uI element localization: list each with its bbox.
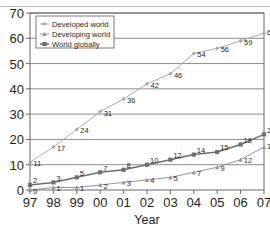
y-axis-tick-label: 40 — [10, 82, 24, 97]
data-point-label: 3 — [127, 179, 131, 188]
x-axis-tick-label: 99 — [70, 195, 84, 210]
data-point-label: 7 — [197, 169, 201, 178]
legend-label: Developing world — [52, 30, 110, 39]
x-axis-tick-label: 00 — [93, 195, 107, 210]
data-point-label: 10 — [150, 156, 158, 165]
data-point-marker — [262, 132, 266, 136]
data-point-label: 17 — [267, 142, 270, 151]
data-point-label: 12 — [173, 151, 181, 160]
data-point-label: 22 — [267, 126, 270, 135]
data-point-label: 0 — [33, 187, 37, 196]
data-point-marker — [262, 145, 266, 149]
data-point-label: 9 — [220, 164, 224, 173]
data-point-label: 1 — [80, 184, 84, 193]
x-axis-tick-label: 02 — [140, 195, 154, 210]
data-point-label: 18 — [244, 136, 252, 145]
data-point-label: 11 — [34, 159, 42, 168]
chart-series: 23578101214151822 — [28, 126, 270, 187]
x-axis-tick-label: 06 — [233, 195, 247, 210]
legend-label: World globally — [52, 40, 100, 49]
data-point-label: 15 — [220, 143, 228, 152]
data-point-label: 12 — [244, 156, 252, 165]
y-axis-tick-label: 30 — [10, 107, 24, 122]
data-point-marker — [215, 150, 219, 154]
x-axis-tick-label: 98 — [46, 195, 60, 210]
data-point-label: 1 — [57, 184, 61, 193]
data-point-marker — [192, 153, 196, 157]
data-point-marker — [98, 170, 102, 174]
data-point-label: 24 — [80, 126, 88, 135]
y-axis-tick-label: 20 — [10, 132, 24, 147]
data-point-marker — [239, 142, 243, 146]
data-point-label: 2 — [103, 182, 107, 191]
data-point-marker — [28, 183, 32, 187]
data-point-label: 14 — [197, 146, 205, 155]
data-point-label: 8 — [127, 161, 131, 170]
data-point-marker — [215, 46, 219, 50]
data-point-label: 56 — [221, 45, 229, 54]
x-axis-tick-label: 03 — [163, 195, 177, 210]
data-point-marker — [145, 163, 149, 167]
data-point-label: 5 — [80, 169, 84, 178]
x-axis-tick-label: 05 — [210, 195, 224, 210]
x-axis-tick-label: 04 — [187, 195, 201, 210]
series-line — [30, 134, 264, 185]
x-axis-tick-label: 07 — [257, 195, 270, 210]
data-point-label: 5 — [174, 174, 178, 183]
data-point-label: 3 — [56, 174, 60, 183]
y-axis-tick-label: 70 — [10, 6, 24, 21]
data-point-marker — [262, 31, 266, 35]
data-point-label: 2 — [33, 176, 37, 185]
data-point-label: 59 — [244, 38, 252, 47]
data-point-label: 31 — [104, 109, 112, 118]
y-axis-tick-label: 10 — [10, 158, 24, 173]
y-axis-tick-label: 60 — [10, 31, 24, 46]
chart-container: 0102030405060709798990001020304050607Yea… — [0, 0, 270, 230]
series-line — [30, 147, 264, 190]
data-point-marker — [75, 175, 79, 179]
line-chart: 0102030405060709798990001020304050607Yea… — [0, 0, 270, 230]
data-point-marker — [239, 39, 243, 43]
data-point-label: 7 — [103, 164, 107, 173]
x-axis-tick-label: 01 — [116, 195, 130, 210]
data-point-label: 46 — [174, 71, 182, 80]
data-point-label: 4 — [150, 176, 154, 185]
y-axis-tick-label: 50 — [10, 57, 24, 72]
data-point-label: 17 — [57, 144, 65, 153]
data-point-marker — [122, 168, 126, 172]
data-point-marker — [42, 42, 46, 46]
data-point-label: 36 — [127, 96, 135, 105]
x-axis-tick-label: 97 — [23, 195, 37, 210]
data-point-label: 42 — [151, 81, 159, 90]
data-point-label: 54 — [197, 50, 205, 59]
data-point-marker — [51, 180, 55, 184]
legend-label: Developed world — [52, 20, 109, 29]
data-point-marker — [168, 158, 172, 162]
data-point-label: 62 — [267, 28, 270, 37]
x-axis-title: Year — [134, 213, 159, 227]
